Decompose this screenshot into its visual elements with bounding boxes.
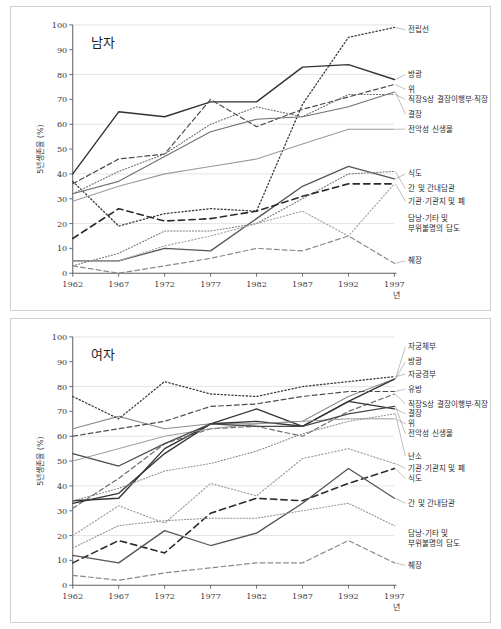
series-label: 자궁경부 [408, 369, 436, 379]
x-tick-label: 1992 [338, 279, 359, 289]
series-line [73, 184, 395, 239]
chart-panel-female: 0102030405060708090100196219671972197719… [10, 318, 491, 623]
series-label: 부위불명의 담도 [408, 223, 459, 233]
y-tick-label: 100 [52, 20, 68, 30]
figure-page: 0102030405060708090100196219671972197719… [0, 0, 501, 629]
y-tick-label: 90 [57, 357, 67, 367]
series-line [73, 94, 395, 193]
x-tick-label: 1982 [246, 279, 267, 289]
label-leader-line [395, 92, 405, 114]
series-line [73, 236, 395, 273]
y-tick-label: 80 [57, 382, 67, 392]
label-leader-line [395, 498, 405, 503]
series-line [73, 27, 395, 226]
series-label: 직장S상 결장이행부·직장 [408, 399, 488, 409]
series-line [73, 469, 395, 563]
series-label: 담낭·기타 및 [408, 213, 448, 223]
y-tick-label: 50 [57, 144, 67, 154]
y-tick-label: 30 [57, 506, 67, 516]
series-label: 위 [408, 419, 415, 428]
label-leader-line [395, 563, 405, 565]
series-label: 방광 [408, 69, 422, 79]
x-tick-label: 1987 [292, 591, 313, 601]
y-tick-label: 60 [57, 431, 67, 441]
y-tick-label: 90 [57, 45, 67, 55]
series-label: 유방 [408, 384, 422, 394]
y-axis-title: 5년생존율 (%) [35, 436, 45, 485]
series-label: 직장S상 결장이행부·직장 [408, 94, 488, 104]
label-leader-line [395, 174, 405, 179]
x-tick-label: 1977 [200, 591, 221, 601]
x-tick-label: 1962 [62, 279, 83, 289]
x-tick-label: 1997 [384, 591, 405, 601]
series-label: 식도 [408, 474, 422, 483]
y-tick-label: 100 [52, 332, 68, 342]
series-line [73, 184, 395, 261]
y-tick-label: 70 [57, 406, 67, 416]
series-label: 전악성 신생물 [408, 124, 452, 134]
series-line [73, 65, 395, 174]
chart-panel-male: 0102030405060708090100196219671972197719… [10, 6, 491, 311]
series-line [73, 84, 395, 183]
y-tick-label: 30 [57, 194, 67, 204]
y-tick-label: 20 [57, 219, 67, 229]
label-leader-line [395, 261, 405, 263]
y-tick-label: 60 [57, 119, 67, 129]
series-label: 간 및 간내담관 [408, 183, 455, 193]
series-label: 췌장 [408, 255, 422, 265]
label-leader-line [395, 75, 405, 80]
label-leader-line [395, 409, 405, 414]
y-tick-label: 20 [57, 531, 67, 541]
panel-title: 남자 [91, 35, 115, 50]
y-tick-label: 40 [57, 481, 67, 491]
series-label: 식도 [408, 169, 422, 178]
series-label: 췌장 [408, 560, 422, 570]
x-tick-label: 1982 [246, 591, 267, 601]
x-tick-label: 1972 [154, 591, 175, 601]
label-leader-line [395, 469, 405, 479]
series-label: 결장 [408, 109, 422, 119]
label-leader-line [395, 394, 405, 404]
series-label: 방광 [408, 356, 422, 366]
series-label: 간 및 간내담관 [408, 498, 455, 508]
series-label: 결장 [408, 408, 422, 418]
y-tick-label: 70 [57, 94, 67, 104]
line-chart-female: 0102030405060708090100196219671972197719… [11, 319, 490, 622]
x-tick-label: 1987 [292, 279, 313, 289]
series-label: 위 [408, 85, 415, 94]
label-leader-line [395, 389, 405, 391]
x-tick-label: 1972 [154, 279, 175, 289]
y-tick-label: 10 [57, 555, 67, 565]
y-tick-label: 10 [57, 243, 67, 253]
series-label: 전립선 [408, 24, 429, 34]
x-axis-title: 년 [393, 290, 400, 300]
y-tick-label: 40 [57, 169, 67, 179]
series-label: 난소 [408, 452, 422, 461]
y-tick-label: 80 [57, 70, 67, 80]
x-tick-label: 1962 [62, 591, 83, 601]
series-line [73, 414, 395, 501]
x-tick-label: 1967 [108, 591, 129, 601]
x-axis-title: 년 [393, 602, 400, 612]
label-leader-line [395, 84, 405, 89]
series-line [73, 541, 395, 581]
series-label: 담낭·기타 및 [408, 528, 448, 538]
series-label: 기관·기관지 및 폐 [408, 196, 464, 206]
y-tick-label: 0 [62, 580, 67, 590]
series-line [73, 129, 395, 201]
line-chart-male: 0102030405060708090100196219671972197719… [11, 7, 490, 310]
series-line [73, 469, 395, 563]
y-axis-title: 5년생존율 (%) [35, 124, 45, 173]
series-line [73, 92, 395, 194]
series-label: 부위불명의 담도 [408, 538, 459, 548]
series-label: 자궁체부 [408, 341, 436, 351]
x-tick-label: 1997 [384, 279, 405, 289]
x-tick-label: 1992 [338, 591, 359, 601]
x-tick-label: 1967 [108, 279, 129, 289]
label-leader-line [395, 27, 405, 29]
panel-title: 여자 [91, 347, 115, 362]
series-label: 전악성 신생물 [408, 428, 452, 438]
y-tick-label: 0 [62, 268, 67, 278]
series-label: 기관·기관지 및 폐 [408, 463, 464, 473]
y-tick-label: 50 [57, 456, 67, 466]
